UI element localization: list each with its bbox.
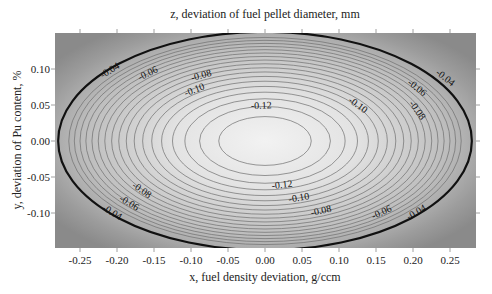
x-tick-label: 0.00 xyxy=(255,254,275,266)
y-tick-label: 0.10 xyxy=(31,63,51,75)
x-tick-label: -0.05 xyxy=(217,254,240,266)
x-tick-label: -0.15 xyxy=(143,254,166,266)
x-tick-label: 0.20 xyxy=(403,254,423,266)
x-axis-title: x, fuel density deviation, g/ccm xyxy=(189,270,341,284)
x-tick-label: -0.10 xyxy=(180,254,203,266)
x-tick-label: -0.25 xyxy=(69,254,92,266)
y-tick-label: -0.05 xyxy=(27,171,50,183)
x-tick-label: 0.25 xyxy=(440,254,460,266)
y-tick-label: 0.05 xyxy=(31,99,51,111)
contour-label: -0.12 xyxy=(271,178,293,191)
x-tick-label: 0.15 xyxy=(366,254,386,266)
y-tick-label: 0.00 xyxy=(31,135,51,147)
contour-label: -0.12 xyxy=(251,99,272,111)
y-axis-title: y, deviation of Pu content, % xyxy=(10,71,24,210)
x-tick-label: -0.20 xyxy=(106,254,129,266)
x-tick-label: 0.05 xyxy=(292,254,312,266)
x-tick-label: 0.10 xyxy=(329,254,349,266)
contour-chart: z, deviation of fuel pellet diameter, mm… xyxy=(0,0,492,294)
chart-title: z, deviation of fuel pellet diameter, mm xyxy=(170,7,360,21)
y-tick-label: -0.10 xyxy=(27,207,50,219)
plot-area: -0.04-0.06-0.08-0.10-0.12-0.10-0.08-0.06… xyxy=(55,32,476,250)
